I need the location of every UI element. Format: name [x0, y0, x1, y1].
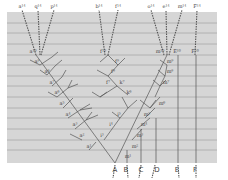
branch-label: f⁷ — [106, 79, 110, 85]
descendant-label: f¹⁴ — [115, 3, 121, 9]
descendant-label: o¹⁴ — [147, 3, 154, 9]
generation-10-label: m¹⁰ — [156, 48, 165, 54]
branch-label: k⁷ — [119, 79, 124, 85]
descendant-label: p¹⁴ — [50, 3, 57, 10]
generation-10-label: a¹⁰ — [30, 48, 37, 54]
branch-label: f⁸ — [111, 68, 115, 74]
generation-10-label: F¹⁰ — [191, 48, 198, 54]
ancestral-species-label: F — [193, 166, 197, 174]
branch-label: a⁶ — [55, 89, 60, 95]
ancestral-species-label: B — [124, 166, 129, 174]
branch-label: a⁴ — [66, 111, 71, 117]
generation-10-label: f¹⁰ — [100, 48, 106, 54]
branch-label: k⁶ — [126, 89, 131, 95]
descendant-label: m¹⁴ — [178, 3, 187, 9]
branch-label: i³ — [100, 132, 104, 138]
diagram-stage: a¹⁴q¹⁴p¹⁴b¹⁴f¹⁴o¹⁴e¹⁴m¹⁴F¹⁴a¹⁰f¹⁰m¹⁰E¹⁰F… — [0, 0, 228, 180]
ancestral-species-label: C — [139, 166, 144, 174]
branch-label: a⁷ — [50, 79, 55, 85]
descendant-label: F¹⁴ — [193, 3, 200, 9]
branch-label: i⁵ — [117, 111, 121, 117]
tree-of-life-diagram: a¹⁴q¹⁴p¹⁴b¹⁴f¹⁴o¹⁴e¹⁴m¹⁴F¹⁴a¹⁰f¹⁰m¹⁰E¹⁰F… — [0, 0, 228, 180]
descendant-label: b¹⁴ — [95, 3, 102, 9]
branch-label: a¹ — [87, 143, 92, 149]
ancestral-species-label: A — [113, 166, 118, 174]
branch-label: m⁸ — [167, 68, 174, 74]
branch-label: m⁴ — [141, 121, 148, 127]
branch-label: i⁴ — [109, 121, 113, 127]
branch-label: f⁹ — [115, 58, 119, 64]
generation-10-label: E¹⁰ — [173, 48, 181, 54]
descendant-label: q¹⁴ — [34, 3, 41, 10]
branch-label: a⁵ — [60, 100, 65, 106]
branch-label: m⁵ — [144, 111, 151, 117]
descendant-label: e¹⁴ — [163, 3, 170, 9]
branch-label: a⁸ — [45, 68, 50, 74]
branch-label: m¹ — [125, 153, 132, 159]
branch-label: m⁹ — [167, 58, 174, 64]
branch-label: a³ — [73, 121, 78, 127]
branch-label: m² — [132, 143, 139, 149]
branch-label: m³ — [137, 132, 144, 138]
descendant-label: a¹⁴ — [19, 3, 26, 9]
branch-label: a⁹ — [35, 58, 40, 64]
branch-label: a² — [80, 132, 85, 138]
ancestral-species-label: E — [175, 166, 179, 174]
ancestral-species-label: D — [154, 166, 159, 174]
branch-label: m⁶ — [159, 100, 166, 106]
branch-label: m⁷ — [163, 79, 170, 85]
